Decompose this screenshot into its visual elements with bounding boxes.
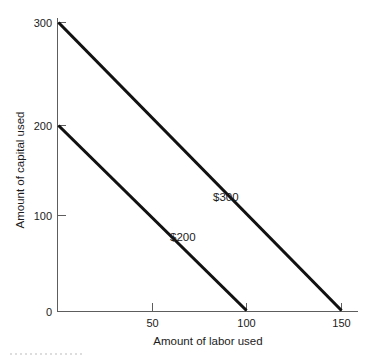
chart-canvas: 300 200 100 0 50 100 150 $300 $200 Amoun…: [0, 0, 375, 362]
y-axis-title: Amount of capital used: [14, 112, 26, 229]
x-tick-label-150: 150: [332, 317, 350, 329]
x-tick-label-50: 50: [146, 317, 158, 329]
series-annotations-group: $300 $200: [170, 191, 239, 243]
y-tick-label-100: 100: [34, 210, 52, 222]
y-tick-label-300: 300: [34, 17, 52, 29]
isocost-chart-figure: 300 200 100 0 50 100 150 $300 $200 Amoun…: [0, 0, 375, 362]
x-axis-title: Amount of labor used: [153, 335, 262, 347]
y-tick-marks-group: [58, 23, 67, 216]
x-tick-labels-group: 50 100 150: [146, 317, 350, 329]
x-tick-label-100: 100: [237, 317, 255, 329]
scan-artifact: [10, 353, 82, 355]
axes-group: [57, 18, 358, 312]
series-label-200: $200: [170, 231, 196, 243]
isocost-line-200: [59, 126, 247, 311]
x-tick-marks-group: [153, 303, 342, 312]
y-tick-label-200: 200: [34, 120, 52, 132]
y-tick-label-0: 0: [46, 306, 52, 318]
series-label-300: $300: [213, 191, 239, 203]
isocost-lines-group: [59, 23, 342, 311]
y-tick-labels-group: 300 200 100 0: [34, 17, 52, 318]
